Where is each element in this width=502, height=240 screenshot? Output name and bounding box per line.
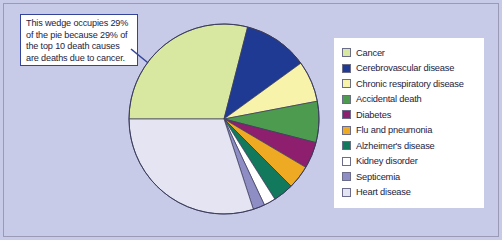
legend-color-swatch [342,188,351,197]
legend-color-swatch [342,157,351,166]
pie-slice-group [129,24,319,214]
legend-item-label: Chronic respiratory disease [356,79,464,89]
legend-item[interactable]: Accidental death [342,92,478,108]
pie-chart [126,22,322,218]
legend-item-label: Diabetes [356,110,391,120]
annotation-text: This wedge occupies 29% of the pie becau… [26,18,133,64]
annotation-callout-box: This wedge occupies 29% of the pie becau… [20,14,138,66]
legend-item-label: Cancer [356,48,385,58]
legend-rows: CancerCerebrovascular diseaseChronic res… [342,45,478,200]
legend-item-label: Heart disease [356,187,411,197]
legend-item-label: Alzheimer's disease [356,141,435,151]
legend-item-label: Cerebrovascular disease [356,63,454,73]
legend-item[interactable]: Septicemia [342,169,478,185]
legend-item[interactable]: Chronic respiratory disease [342,76,478,92]
legend-color-swatch [342,48,351,57]
legend-item[interactable]: Flu and pneumonia [342,123,478,139]
chart-legend: CancerCerebrovascular diseaseChronic res… [334,38,484,208]
legend-item[interactable]: Heart disease [342,185,478,201]
pie-chart-figure: This wedge occupies 29% of the pie becau… [0,0,502,240]
pie-svg [126,22,322,218]
legend-item-label: Flu and pneumonia [356,125,432,135]
legend-color-swatch [342,141,351,150]
legend-item[interactable]: Kidney disorder [342,154,478,170]
legend-item[interactable]: Cancer [342,45,478,61]
legend-item-label: Septicemia [356,172,400,182]
legend-color-swatch [342,79,351,88]
legend-item[interactable]: Diabetes [342,107,478,123]
legend-color-swatch [342,126,351,135]
legend-color-swatch [342,172,351,181]
legend-color-swatch [342,64,351,73]
legend-color-swatch [342,110,351,119]
legend-item[interactable]: Cerebrovascular disease [342,61,478,77]
legend-item-label: Kidney disorder [356,156,418,166]
legend-color-swatch [342,95,351,104]
legend-item-label: Accidental death [356,94,422,104]
legend-item[interactable]: Alzheimer's disease [342,138,478,154]
